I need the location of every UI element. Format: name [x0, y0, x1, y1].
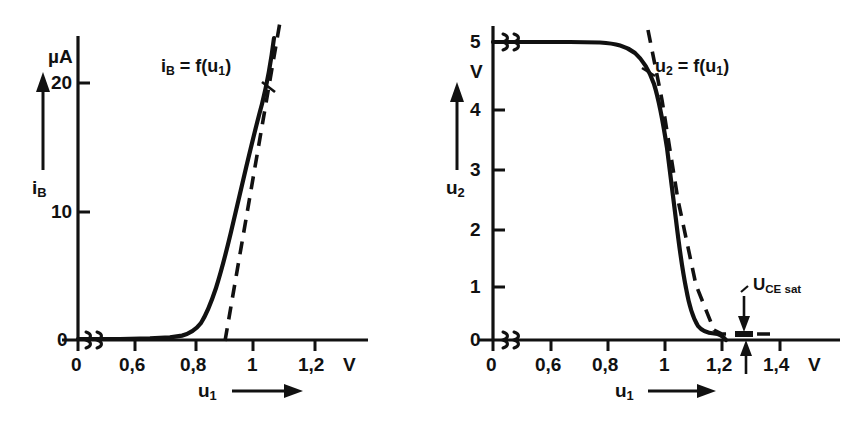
right-x-tick-label-1: 1	[659, 355, 670, 374]
right-y-tick-label-2: 2	[470, 220, 481, 239]
left-x-axis-name-main: u	[198, 380, 210, 401]
right-y-axis-name: u2	[446, 178, 465, 200]
right-y-tick-label-1: 1	[470, 277, 481, 296]
left-x-unit-label: V	[343, 355, 356, 374]
left-x-tick-label-1: 1	[247, 355, 258, 374]
right-x-axis-arrow-icon	[648, 384, 716, 398]
uce-sat-label-main: U	[753, 275, 765, 294]
uce-sat-label-sub: CE sat	[765, 283, 801, 295]
left-curve-linear-approx	[225, 22, 280, 341]
right-x-unit-label: V	[808, 355, 821, 374]
right-y-axis-name-sub: 2	[458, 185, 465, 200]
uce-sat-arrow-icon	[738, 296, 750, 332]
left-y-tick-label-10: 10	[51, 202, 72, 221]
right-x-axis-marker-arrow-icon	[740, 340, 752, 374]
chart-right-u2-vs-u1: 5 V 4 3 2 1 0 u2 0 0,6 0,8 1 1,2 1,4 V u…	[430, 0, 859, 428]
right-y-axis-name-main: u	[446, 177, 458, 198]
right-x-axis-name-sub: 1	[627, 388, 634, 403]
left-x-axis-name: u1	[198, 381, 217, 403]
left-y-axis-arrow-icon	[36, 72, 50, 170]
left-y-unit-label: µA	[48, 47, 73, 66]
right-y-tick-label-0: 0	[470, 330, 481, 349]
right-curve-label: u2 = f(u1)	[655, 57, 729, 77]
left-x-axis-arrow-icon	[232, 384, 303, 398]
right-x-axis-name-main: u	[615, 380, 627, 401]
right-curve-label-mid: = f(u	[673, 56, 717, 76]
uce-sat-label: UCE sat	[753, 276, 801, 295]
left-x-tick-label-0: 0	[71, 355, 82, 374]
right-x-tick-label-08: 0,8	[592, 355, 618, 374]
uce-sat-leader	[741, 286, 748, 292]
right-x-tick-label-14: 1,4	[763, 355, 789, 374]
left-curve-label-mid: = f(u	[175, 56, 219, 76]
left-x-tick-label-12: 1,2	[298, 355, 324, 374]
right-y-tick-label-3: 3	[470, 160, 481, 179]
left-x-axis-name-sub: 1	[210, 388, 217, 403]
left-y-axis-name: iB	[32, 178, 47, 200]
left-y-tick-label-20: 20	[51, 73, 72, 92]
right-x-tick-label-06: 0,6	[535, 355, 561, 374]
left-x-tick-label-06: 0,6	[119, 355, 145, 374]
right-x-axis-break-icon	[503, 332, 519, 348]
right-x-tick-label-12: 1,2	[706, 355, 732, 374]
right-curve-label-sub1: 2	[666, 64, 673, 78]
right-y-axis-arrow-icon	[450, 82, 464, 170]
left-y-tick-label-0: 0	[57, 330, 68, 349]
figure-canvas: µA 20 10 0 iB 0 0,6 0,8 1 1,2 V u1 iB = …	[0, 0, 859, 428]
left-curve-ib	[78, 38, 274, 339]
right-curve-u2	[493, 42, 726, 340]
left-y-axis-name-sub: B	[37, 185, 46, 200]
left-x-tick-label-08: 0,8	[180, 355, 206, 374]
chart-left-ib-vs-u1: µA 20 10 0 iB 0 0,6 0,8 1 1,2 V u1 iB = …	[0, 0, 430, 428]
right-x-axis-name: u1	[615, 381, 634, 403]
right-y-tick-label-5: 5	[470, 32, 481, 51]
right-curve-label-main: u	[655, 56, 666, 76]
left-curve-label-sub1: B	[166, 64, 175, 78]
left-curve-label: iB = f(u1)	[161, 57, 231, 77]
right-x-tick-label-0: 0	[486, 355, 497, 374]
right-curve-label-end: )	[723, 56, 729, 76]
right-y-tick-label-4: 4	[470, 100, 481, 119]
left-curve-label-end: )	[225, 56, 231, 76]
right-y-unit-label: V	[470, 62, 483, 81]
